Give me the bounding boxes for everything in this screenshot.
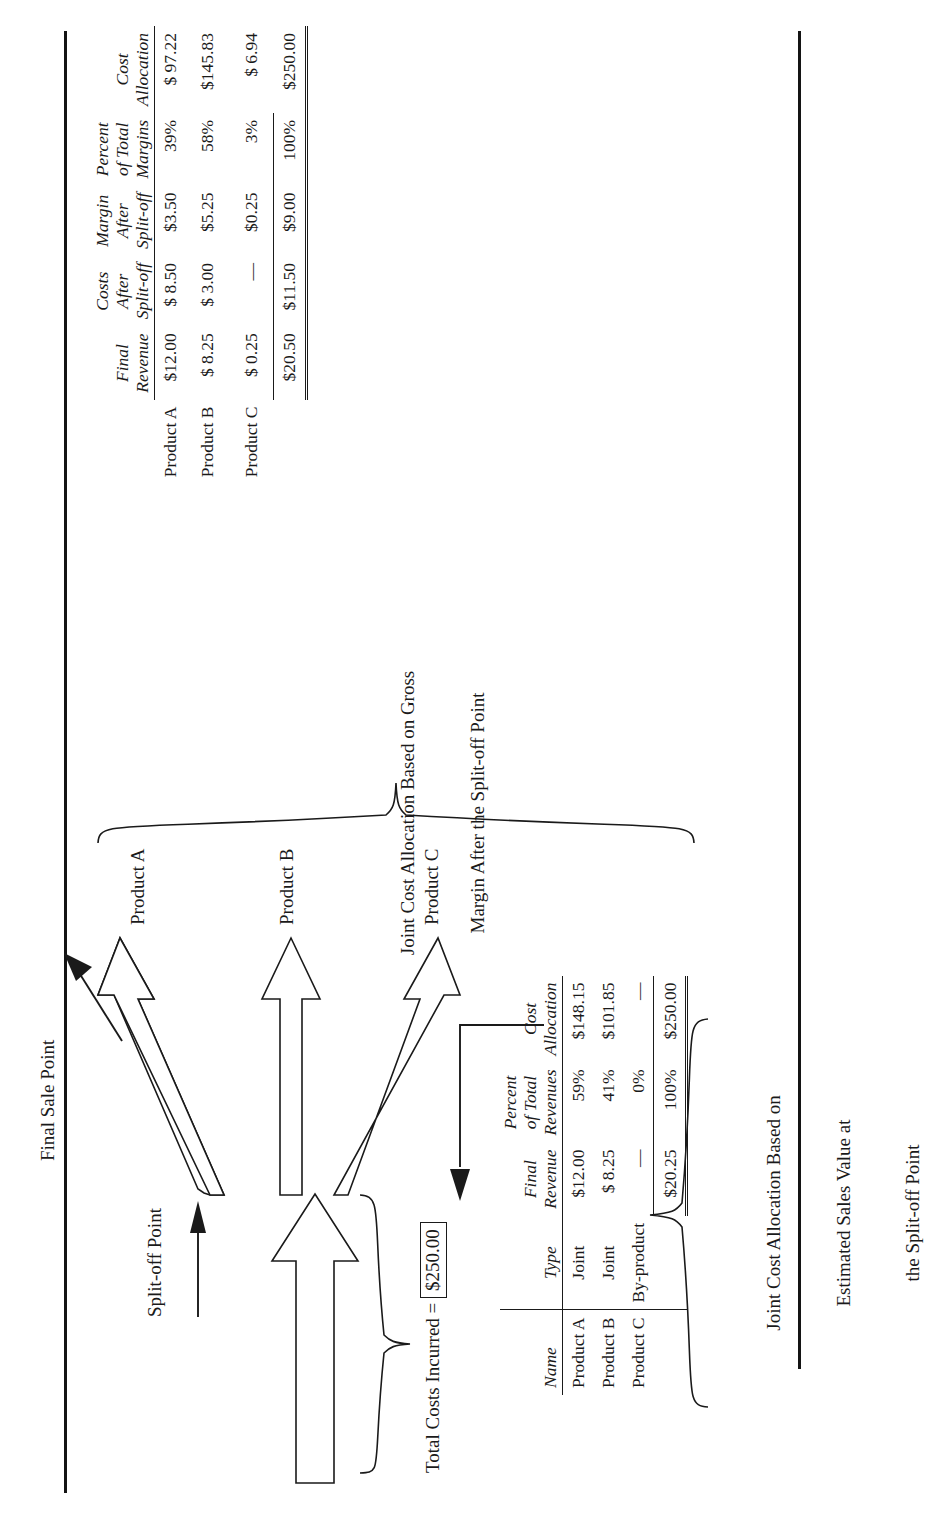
th-cost-allocation: Cost Allocation: [92, 26, 155, 113]
cell-product-name: Product B: [185, 400, 229, 485]
cell-product-name: Product B: [593, 1310, 623, 1395]
cell-percent-revenues: 59%: [563, 1062, 594, 1142]
cell-percent-margins: 58%: [185, 113, 229, 186]
cell-costs-after: $ 3.00: [185, 256, 229, 326]
th-final-revenue: Final Revenue: [92, 326, 155, 399]
cell-cost-allocation: $ 97.22: [155, 26, 186, 113]
cell-type: Joint: [563, 1216, 594, 1310]
cell-margin-after: $5.25: [185, 186, 229, 256]
label-product-c: Product C: [420, 848, 443, 925]
cell-margin-after: $3.50: [155, 186, 186, 256]
cell-final-revenue: $ 8.25: [593, 1143, 623, 1216]
cell-cost-allocation: $145.83: [185, 26, 229, 113]
table-header-row: Name Type Final Revenue Percent of Total…: [500, 976, 563, 1395]
table-gross-margin-after-splitoff: Final Revenue Costs After Split-off Marg…: [92, 26, 308, 484]
th-name: Name: [500, 1310, 563, 1395]
cell-product-name: Product A: [563, 1310, 594, 1395]
table-header-row: Final Revenue Costs After Split-off Marg…: [92, 26, 155, 484]
cell-total-margin-after: $9.00: [273, 186, 306, 256]
total-costs-value-box: $250.00: [420, 1222, 447, 1298]
table-row: Product C $ 0.25 — $0.25 3% $ 6.94: [229, 26, 273, 484]
brace-bottom-table: [648, 1017, 714, 1409]
table-row: Product B Joint $ 8.25 41% $101.85: [593, 976, 623, 1395]
cell-final-revenue: $12.00: [563, 1143, 594, 1216]
cell-total-costs-after: $11.50: [273, 256, 306, 326]
label-product-a: Product A: [126, 848, 149, 925]
cell-final-revenue: $12.00: [155, 326, 186, 399]
pointer-final-sale-point: [62, 951, 128, 1043]
cell-cost-allocation: $ 6.94: [229, 26, 273, 113]
caption-bottom-line2: Estimated Sales Value at: [832, 1013, 855, 1413]
cell-percent-revenues: 41%: [593, 1062, 623, 1142]
brace-total-costs: [358, 1193, 416, 1475]
caption-bottom-line1: Joint Cost Allocation Based on: [762, 1013, 785, 1413]
total-costs-label: Total Costs Incurred =: [422, 1303, 443, 1473]
arrow-to-product-b: [262, 937, 320, 1195]
cell-costs-after: $ 8.50: [155, 256, 186, 326]
cell-margin-after: $0.25: [229, 186, 273, 256]
caption-top-line2: Margin After the Split-off Point: [466, 648, 489, 978]
caption-top-table: Joint Cost Allocation Based on Gross Mar…: [350, 648, 535, 978]
figure-top-rule: [64, 31, 67, 1493]
table-row: Product A $12.00 $ 8.50 $3.50 39% $ 97.2…: [155, 26, 186, 484]
th-costs-after-splitoff: Costs After Split-off: [92, 256, 155, 326]
cell-percent-margins: 39%: [155, 113, 186, 186]
caption-top-line1: Joint Cost Allocation Based on Gross: [396, 648, 419, 978]
cell-percent-margins: 3%: [229, 113, 273, 186]
cell-total-label: [273, 400, 306, 485]
cell-total-cost-allocation: $250.00: [273, 26, 306, 113]
caption-bottom-line3: the Split-off Point: [901, 1013, 924, 1413]
pointer-split-off-point: [188, 1199, 212, 1317]
th-final-revenue: Final Revenue: [500, 1143, 563, 1216]
total-costs-incurred: Total Costs Incurred = $250.00: [420, 1222, 447, 1473]
cell-total-final-revenue: $20.50: [273, 326, 306, 399]
table-row: Product B $ 8.25 $ 3.00 $5.25 58% $145.8…: [185, 26, 229, 484]
label-product-b: Product B: [275, 848, 298, 925]
cell-product-name: Product C: [229, 400, 273, 485]
cell-cost-allocation: $148.15: [563, 976, 594, 1063]
th-type: Type: [500, 1216, 563, 1310]
cell-final-revenue: $ 0.25: [229, 326, 273, 399]
th-margin-after-splitoff: Margin After Split-off: [92, 186, 155, 256]
th-percent-of-total-revenues: Percent of Total Revenues: [500, 1062, 563, 1142]
cell-type: Joint: [593, 1216, 623, 1310]
table-total-row: $20.50 $11.50 $9.00 100% $250.00: [273, 26, 306, 484]
th-blank: [92, 400, 155, 485]
cell-total-percent: 100%: [273, 113, 306, 186]
cell-product-name: Product A: [155, 400, 186, 485]
label-split-off-point: Split-off Point: [143, 1208, 166, 1317]
table-row: Product A Joint $12.00 59% $148.15: [563, 976, 594, 1395]
th-cost-allocation: Cost Allocation: [500, 976, 563, 1063]
cell-final-revenue: $ 8.25: [185, 326, 229, 399]
label-final-sale-point: Final Sale Point: [36, 1040, 59, 1161]
cell-costs-after: —: [229, 256, 273, 326]
cell-cost-allocation: $101.85: [593, 976, 623, 1063]
caption-bottom-table: Joint Cost Allocation Based on Estimated…: [716, 1013, 928, 1413]
arrow-joint-production-input: [272, 1193, 358, 1483]
th-percent-of-total-margins: Percent of Total Margins: [92, 113, 155, 186]
